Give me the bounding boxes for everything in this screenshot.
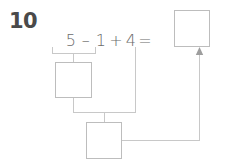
bracket-second-left — [74, 98, 136, 113]
operator-minus: – — [77, 33, 94, 49]
operand-1: 5 — [64, 33, 77, 49]
work-box-step-2[interactable] — [86, 122, 122, 159]
operand-3: 4 — [124, 33, 137, 49]
equals-sign: = — [137, 33, 152, 49]
worksheet-problem: 10 5–1+4= — [0, 0, 233, 168]
arrow-up-icon — [196, 47, 203, 55]
operand-2: 1 — [94, 33, 107, 49]
equation-expression: 5–1+4= — [44, 17, 152, 65]
problem-number: 10 — [9, 11, 37, 32]
operator-plus: + — [107, 33, 124, 49]
answer-box[interactable] — [174, 10, 210, 47]
answer-path — [122, 53, 200, 141]
work-box-step-1[interactable] — [55, 62, 92, 98]
